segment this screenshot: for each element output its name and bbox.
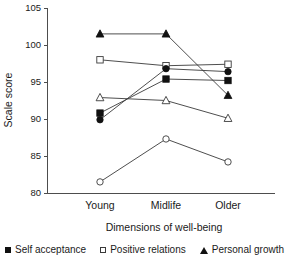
y-tick-label: 85 [30, 150, 41, 161]
open-square-icon [100, 247, 106, 253]
y-axis-title: Scale score [2, 72, 14, 127]
y-tick-label: 95 [30, 76, 41, 87]
x-axis-ticks: YoungMidlifeOlder [85, 199, 241, 211]
legend-label: Personal growth [212, 245, 284, 255]
data-series [97, 136, 231, 185]
legend-label: Self acceptance [15, 245, 86, 255]
y-tick-label: 80 [30, 187, 41, 198]
x-tick-label: Older [215, 199, 241, 211]
data-series [97, 76, 231, 116]
y-tick-label: 90 [30, 113, 41, 124]
series-lines [96, 30, 232, 185]
filled-triangle-icon [200, 247, 208, 254]
y-axis-ticks: 80859095100105 [25, 2, 47, 198]
data-series [97, 65, 231, 122]
x-tick-label: Young [85, 199, 115, 211]
chart-container: 80859095100105 YoungMidlifeOlder Scale s… [0, 0, 289, 258]
x-axis-title: Dimensions of well-being [106, 221, 223, 233]
chart-legend: Self acceptancePositive relationsPersona… [0, 245, 289, 255]
filled-square-icon [5, 247, 11, 253]
y-tick-label: 100 [25, 39, 41, 50]
y-tick-label: 105 [25, 2, 41, 13]
legend-item: Positive relations [100, 245, 186, 255]
line-chart-plot: 80859095100105 YoungMidlifeOlder Scale s… [0, 0, 289, 258]
legend-item: Personal growth [200, 245, 284, 255]
legend-item: Self acceptance [5, 245, 86, 255]
legend-label: Positive relations [110, 245, 186, 255]
x-tick-label: Midlife [151, 199, 182, 211]
